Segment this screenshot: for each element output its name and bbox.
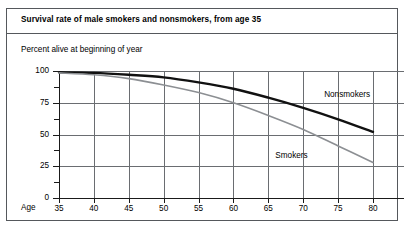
gridline-vertical [94, 71, 95, 198]
y-axis-tick [53, 135, 59, 136]
y-axis-label: Percent alive at beginning of year [21, 45, 143, 54]
gridline-vertical [199, 71, 200, 198]
gridline-vertical [233, 71, 234, 198]
y-axis-tick [53, 71, 59, 72]
x-axis-tick [164, 199, 165, 203]
y-axis-tick-label: 50 [7, 130, 49, 139]
x-axis-tick [268, 199, 269, 203]
x-axis-tick-label: 45 [114, 204, 144, 213]
x-axis-tick-label: 80 [358, 204, 388, 213]
chart-title-bar: Survival rate of male smokers and nonsmo… [7, 9, 397, 34]
x-axis-tick [199, 199, 200, 203]
x-axis-tick-label: 35 [44, 204, 74, 213]
gridline-vertical [129, 71, 130, 198]
y-axis-minor-tick [54, 87, 59, 88]
y-axis-tick-label: 0 [7, 193, 49, 202]
y-axis-minor-tick [54, 150, 59, 151]
gridline-vertical [303, 71, 304, 198]
chart-figure: Survival rate of male smokers and nonsmo… [6, 8, 398, 221]
y-axis-tick-label: 25 [7, 161, 49, 170]
x-axis-tick-label: 60 [218, 204, 248, 213]
gridline-horizontal [59, 71, 404, 72]
x-axis-line [59, 198, 404, 199]
y-axis-tick [53, 103, 59, 104]
x-axis-tick-label: 70 [288, 204, 318, 213]
x-axis-tick [233, 199, 234, 203]
gridline-horizontal [59, 103, 404, 104]
x-axis-tick-label: 55 [184, 204, 214, 213]
x-axis-tick-label: 75 [323, 204, 353, 213]
x-axis-label: Age [21, 203, 36, 212]
y-axis-line [59, 71, 60, 199]
x-axis-tick [59, 199, 60, 203]
x-axis-tick-label: 50 [149, 204, 179, 213]
x-axis-tick [373, 199, 374, 203]
x-axis-tick [303, 199, 304, 203]
gridline-horizontal [59, 166, 404, 167]
x-axis-tick [129, 199, 130, 203]
x-axis-tick [94, 199, 95, 203]
gridline-vertical [268, 71, 269, 198]
y-axis-tick [53, 166, 59, 167]
y-axis-tick-label: 100 [7, 66, 49, 75]
page-title: Survival rate of male smokers and nonsmo… [21, 15, 261, 24]
x-axis-tick-label: 40 [79, 204, 109, 213]
y-axis-minor-tick [54, 182, 59, 183]
gridline-horizontal [59, 135, 404, 136]
gridline-vertical [164, 71, 165, 198]
x-axis-tick [338, 199, 339, 203]
series-annotation-nonsmokers: Nonsmokers [324, 90, 370, 99]
gridline-vertical [373, 71, 374, 198]
x-axis-tick-label: 65 [253, 204, 283, 213]
y-axis-minor-tick [54, 119, 59, 120]
y-axis-tick-label: 75 [7, 98, 49, 107]
series-annotation-smokers: Smokers [275, 151, 307, 160]
